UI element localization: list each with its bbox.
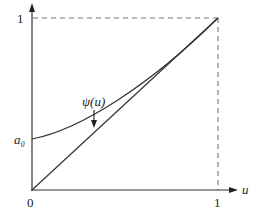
x-tick-0: 0 [27,195,34,210]
x-axis-arrow-icon [229,187,238,193]
x-tick-1: 1 [214,195,221,210]
annotation-arrow-icon [91,120,97,128]
psi-label: ψ(u) [82,94,105,109]
diagram: 1 0 1 u a₀ ψ(u) [0,0,265,222]
x-axis-label: u [242,182,249,197]
intercept-label: a₀ [14,132,25,147]
psi-curve [32,18,218,139]
y-axis-arrow-icon [29,3,35,12]
y-tick-1: 1 [17,11,24,26]
